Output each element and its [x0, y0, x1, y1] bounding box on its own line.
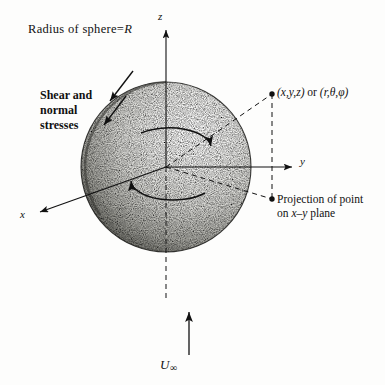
freestream-subscript: ∞	[169, 362, 177, 373]
shear-label-line2: normal	[40, 103, 92, 118]
coordinates-conjunction: or	[307, 86, 317, 98]
z-axis-label: z	[158, 10, 162, 23]
x-axis-label: x	[20, 208, 25, 221]
shear-label-line3: stresses	[40, 118, 92, 133]
radius-of-sphere-label: Radius of sphere=R	[28, 22, 132, 37]
y-axis-label: y	[300, 155, 305, 168]
point-marker	[269, 91, 274, 96]
shear-and-normal-stresses-label: Shear and normal stresses	[40, 88, 92, 133]
projection-plane-axes: x–y	[291, 207, 307, 219]
point-coordinates-label: (x,y,z) or (r,θ,φ)	[277, 86, 348, 100]
projection-line2-suffix: plane	[307, 207, 335, 219]
axis-lines	[40, 30, 292, 300]
freestream-symbol: U	[160, 357, 169, 372]
spherical-coordinates: (r,θ,φ)	[320, 86, 349, 98]
radius-symbol: R	[124, 22, 132, 36]
projection-line2-prefix: on	[277, 207, 291, 219]
figure-panel: Radius of sphere=R Shear and normal stre…	[0, 0, 385, 385]
projection-of-point-label: Projection of point on x–y plane	[277, 192, 363, 221]
freestream-velocity-label: U∞	[160, 357, 177, 374]
shear-label-line1: Shear and	[40, 88, 92, 103]
projection-label-line2: on x–y plane	[277, 206, 363, 220]
cartesian-coordinates: (x,y,z)	[277, 86, 304, 98]
projection-point-marker	[269, 196, 274, 201]
projection-label-line1: Projection of point	[277, 192, 363, 206]
radius-label-text: Radius of sphere=	[28, 22, 124, 36]
